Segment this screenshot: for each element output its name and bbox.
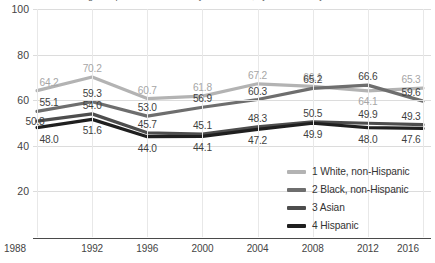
data-label: 45.1 [193,120,212,131]
legend-item-1[interactable]: 1 White, non-Hispanic [287,166,410,177]
x-axis-tick-label: 2008 [302,243,324,254]
y-axis-tick-label: 60 [17,94,29,106]
x-axis-tick-label: 2000 [191,243,213,254]
data-label: 44.0 [138,142,157,153]
data-label: 61.8 [193,82,212,93]
gridline-vertical [423,9,424,237]
legend-item-4[interactable]: 4 Hispanic [287,220,410,231]
data-label: 65.3 [401,74,420,85]
legend-swatch-icon [287,188,306,192]
legend-item-2[interactable]: 2 Black, non-Hispanic [287,184,410,195]
data-label: 47.6 [401,134,420,145]
x-axis-tick-label: 1996 [136,243,158,254]
data-label: 45.7 [138,118,157,129]
data-label: 70.2 [83,62,102,73]
data-label: 50.8 [25,116,44,127]
x-axis-tick-label: 2012 [357,243,379,254]
x-axis-line [33,238,431,239]
data-label: 54.0 [83,99,102,110]
data-label: 56.9 [193,93,212,104]
data-label: 66.6 [358,71,377,82]
legend-item-label: 4 Hispanic [312,220,359,231]
chart-legend: 1 White, non-Hispanic2 Black, non-Hispan… [287,166,410,231]
y-axis-tick-label: 100 [11,3,29,15]
data-label: 55.1 [39,97,58,108]
legend-swatch-icon [287,224,306,228]
x-axis-tick-label: 2004 [247,243,269,254]
gridline-vertical [92,9,93,237]
legend-item-label: 2 Black, non-Hispanic [312,184,408,195]
y-axis-tick-label: 80 [17,49,29,61]
data-label: 49.9 [303,129,322,140]
legend-swatch-icon [287,206,306,210]
data-label: 64.2 [39,76,58,87]
data-label: 48.0 [39,133,58,144]
legend-swatch-icon [287,170,306,174]
legend-item-label: 3 Asian [312,202,345,213]
data-label: 44.1 [193,142,212,153]
data-label: 53.0 [138,102,157,113]
x-axis-tick-label: 1988 [4,243,26,254]
legend-item-3[interactable]: 3 Asian [287,202,410,213]
data-label: 64.1 [358,95,377,106]
x-axis-tick-label: 1992 [81,243,103,254]
data-label: 51.6 [83,125,102,136]
data-label: 48.0 [358,133,377,144]
data-label: 59.3 [83,87,102,98]
y-axis-tick-label: 20 [17,185,29,197]
y-axis-tick-label: 40 [17,140,29,152]
chart-title: Adult children who grew up in families w… [10,0,324,1]
data-label: 48.3 [248,112,267,123]
data-label: 50.5 [303,107,322,118]
legend-item-label: 1 White, non-Hispanic [312,166,410,177]
x-axis-tick-label: 2016 [397,243,419,254]
data-label: 49.3 [401,110,420,121]
data-label: 60.7 [138,84,157,95]
data-label: 67.2 [248,69,267,80]
data-label: 65.2 [303,74,322,85]
data-label: 49.9 [358,109,377,120]
data-label: 47.2 [248,135,267,146]
data-label: 59.6 [401,87,420,98]
line-chart: Adult children who grew up in families w… [0,0,435,263]
data-label: 60.3 [248,85,267,96]
